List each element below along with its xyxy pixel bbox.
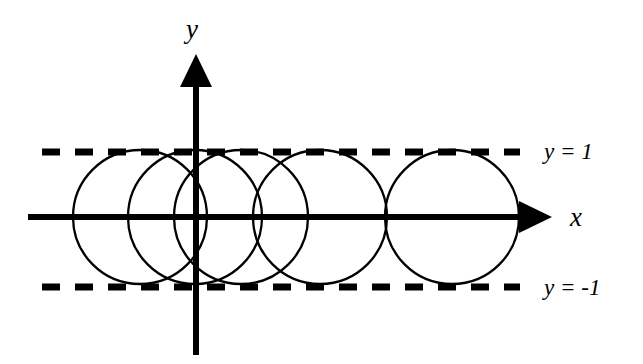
figure-canvas: y x y = 1 y = -1 bbox=[0, 0, 643, 364]
x-axis-arrowhead-icon bbox=[519, 201, 552, 233]
diagram-svg bbox=[0, 0, 643, 364]
guide-line-upper-label: y = 1 bbox=[544, 140, 593, 163]
y-axis bbox=[180, 54, 212, 355]
y-axis-arrowhead-icon bbox=[180, 54, 212, 87]
y-axis-label: y bbox=[186, 16, 198, 43]
x-axis bbox=[28, 201, 552, 233]
guide-line-lower-label: y = -1 bbox=[544, 276, 600, 299]
x-axis-label: x bbox=[570, 204, 582, 231]
